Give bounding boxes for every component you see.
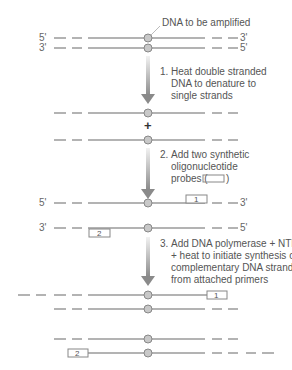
- primer-label: 2: [75, 349, 80, 358]
- marker-circle: [144, 224, 152, 232]
- step-1-line-1: 1.: [160, 66, 168, 77]
- primer-label: 2: [97, 229, 102, 238]
- marker-circle: [144, 291, 152, 299]
- end-label: 3': [240, 197, 248, 208]
- extended-strands: [18, 295, 274, 353]
- marker-circle: [144, 136, 152, 144]
- step-1-text: single strands: [171, 90, 233, 101]
- step-2-number: 2.: [160, 149, 168, 160]
- marker-circle: [144, 34, 152, 42]
- arrowhead-icon: [141, 276, 155, 286]
- arrow-icon: [146, 148, 150, 190]
- arrow-icon: [146, 237, 150, 277]
- primer-label: 1: [214, 291, 219, 300]
- step-3-number: 3.: [160, 238, 168, 249]
- marker-circle: [144, 349, 152, 357]
- end-label: 5': [240, 42, 248, 53]
- step-1-text: Heat double stranded: [171, 66, 267, 77]
- pcr-diagram: DNA to be amplified 5' 3' 3' 5' 1. Heat …: [0, 0, 292, 370]
- step-1-text: DNA to denature to: [171, 78, 256, 89]
- step-2-text: ): [226, 173, 229, 184]
- title-label: DNA to be amplified: [162, 17, 250, 28]
- end-label: 3': [39, 42, 47, 53]
- plus-sign: +: [144, 118, 152, 133]
- arrow-icon: [146, 56, 150, 96]
- marker-circle: [144, 305, 152, 313]
- step-2-text: oligonucleotide: [171, 161, 238, 172]
- step-3-text: complementary DNA strands: [171, 262, 292, 273]
- end-label: 5': [39, 197, 47, 208]
- leader-line: [151, 26, 160, 35]
- arrowhead-icon: [141, 94, 155, 104]
- marker-circle: [144, 109, 152, 117]
- end-label: 5': [240, 222, 248, 233]
- step-2-text: Add two synthetic: [171, 149, 249, 160]
- end-label: 3': [39, 222, 47, 233]
- marker-circle: [144, 199, 152, 207]
- arrowhead-icon: [141, 189, 155, 199]
- step-3-text: from attached primers: [171, 274, 268, 285]
- marker-circle: [144, 44, 152, 52]
- step-3-text: + heat to initiate synthesis of: [171, 250, 292, 261]
- primer-label: 1: [194, 195, 199, 204]
- marker-circle: [144, 335, 152, 343]
- step-3-text: Add DNA polymerase + NTP: [171, 238, 292, 249]
